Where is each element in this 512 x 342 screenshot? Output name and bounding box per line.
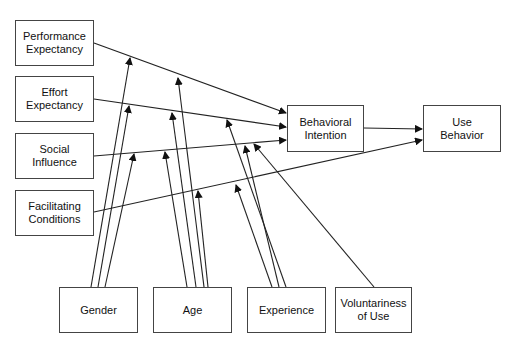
performance-expectancy-box: Performance Expectancy [15, 20, 94, 66]
voluntariness-label: Voluntariness of Use [340, 297, 406, 323]
gender-box: Gender [59, 287, 138, 333]
gender-label: Gender [80, 304, 117, 317]
behavioral-intention-box: Behavioral Intention [287, 105, 364, 152]
facilitating-conditions-box: Facilitating Conditions [15, 190, 94, 236]
mod-age-ee [172, 113, 196, 287]
mod-age-fc [198, 191, 208, 287]
edge-bi-ub [364, 128, 422, 129]
age-label: Age [183, 304, 203, 317]
behavioral-intention-label: Behavioral Intention [300, 116, 352, 142]
mod-vol-si [254, 144, 374, 287]
effort-expectancy-label: Effort Expectancy [26, 86, 83, 112]
age-box: Age [153, 287, 232, 333]
effort-expectancy-box: Effort Expectancy [15, 76, 94, 122]
social-influence-label: Social Influence [32, 143, 77, 169]
social-influence-box: Social Influence [15, 133, 94, 179]
facilitating-conditions-label: Facilitating Conditions [28, 200, 81, 226]
performance-expectancy-label: Performance Expectancy [23, 30, 86, 56]
mod-gender-pe [91, 58, 130, 287]
mod-age-si [165, 152, 187, 287]
use-behavior-label: Use Behavior [440, 116, 483, 142]
experience-label: Experience [259, 304, 314, 317]
mod-exp-ee [227, 120, 286, 287]
experience-box: Experience [247, 287, 326, 333]
voluntariness-box: Voluntariness of Use [335, 287, 412, 333]
use-behavior-box: Use Behavior [423, 105, 501, 152]
